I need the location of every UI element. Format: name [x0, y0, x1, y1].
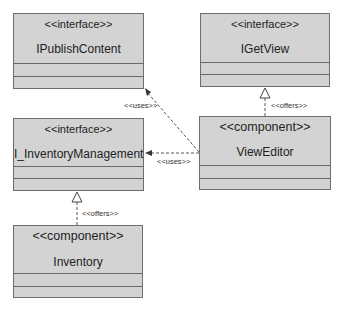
edge-label-uses-iinventory: <<uses>> [157, 157, 190, 166]
edge-label-offers-igetview: <<offers>> [271, 101, 307, 110]
edge-label-offers-iinventory: <<offers>> [82, 209, 118, 218]
edge-label-uses-ipublish: <<uses>> [124, 101, 157, 110]
connectors [0, 0, 341, 311]
realization-triangle-icon [260, 88, 270, 98]
arrowhead-icon [145, 88, 151, 96]
realization-triangle-icon [72, 192, 82, 202]
arrowhead-icon [145, 150, 152, 156]
